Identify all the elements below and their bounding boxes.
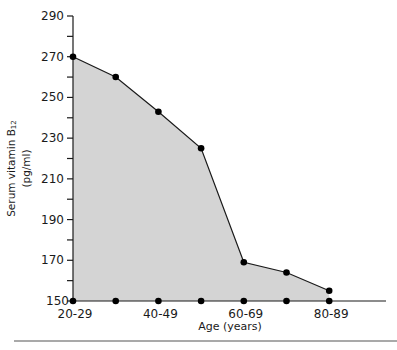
svg-text:150: 150 [46,294,69,308]
svg-text:80-89: 80-89 [314,307,349,321]
svg-text:290: 290 [41,9,64,23]
svg-text:60-69: 60-69 [228,307,263,321]
chart: 15017019021023025027029020-2940-4960-698… [0,0,397,350]
svg-text:20-29: 20-29 [58,307,93,321]
svg-text:270: 270 [41,50,64,64]
svg-text:190: 190 [41,213,64,227]
svg-text:40-49: 40-49 [143,307,178,321]
svg-text:250: 250 [41,90,64,104]
y-axis-title: Serum vitamin B12 (pg/ml) [5,99,32,239]
area-fill [73,57,329,301]
svg-text:230: 230 [41,131,64,145]
svg-text:170: 170 [41,253,64,267]
x-axis-title: Age (years) [198,320,262,333]
svg-text:210: 210 [41,172,64,186]
